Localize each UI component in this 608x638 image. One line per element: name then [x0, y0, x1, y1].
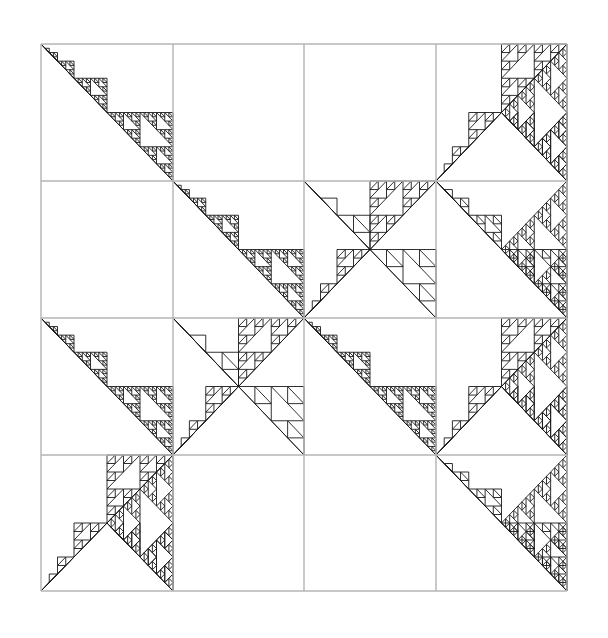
fractal-figure — [0, 0, 608, 638]
